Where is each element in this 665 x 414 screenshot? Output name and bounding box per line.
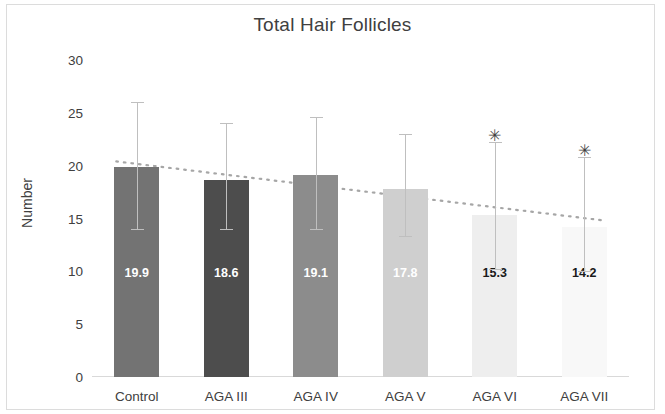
x-tick-label: AGA IV xyxy=(271,389,361,404)
bar-value-label: 18.6 xyxy=(204,266,249,280)
error-bar-cap-lower xyxy=(578,271,591,272)
y-axis-label: Number xyxy=(19,163,35,243)
chart-title: Total Hair Follicles xyxy=(0,14,665,36)
error-bar-line xyxy=(226,123,227,229)
significance-asterisk: ✳ xyxy=(564,146,604,156)
y-tick-label: 30 xyxy=(68,53,83,68)
error-bar-line xyxy=(584,157,585,271)
significance-asterisk: ✳ xyxy=(475,131,515,141)
y-tick-label: 5 xyxy=(75,317,83,332)
error-bar-line xyxy=(405,134,406,236)
error-bar-cap-lower xyxy=(399,236,412,237)
error-bar-cap-upper xyxy=(220,123,233,124)
y-tick-label: 20 xyxy=(68,158,83,173)
y-tick-label: 15 xyxy=(68,211,83,226)
error-bar-cap-lower xyxy=(310,229,323,230)
error-bar-line xyxy=(316,117,317,229)
y-tick-label: 10 xyxy=(68,264,83,279)
y-tick-label: 0 xyxy=(75,370,83,385)
error-bar-cap-upper xyxy=(399,134,412,135)
x-tick-label: Control xyxy=(92,389,182,404)
trendline xyxy=(92,60,629,377)
y-tick-label: 25 xyxy=(68,105,83,120)
error-bar-cap-lower xyxy=(489,269,502,270)
error-bar-cap-upper xyxy=(310,117,323,118)
error-bar-cap-lower xyxy=(220,229,233,230)
x-tick-label: AGA V xyxy=(361,389,451,404)
error-bar-cap-upper xyxy=(131,102,144,103)
chart-figure: Total Hair Follicles Number 051015202530… xyxy=(0,0,665,414)
x-tick-label: AGA III xyxy=(182,389,272,404)
bar-value-label: 17.8 xyxy=(383,266,428,280)
x-tick-label: AGA VII xyxy=(540,389,630,404)
error-bar-line xyxy=(495,142,496,269)
error-bar-cap-lower xyxy=(131,229,144,230)
x-tick-label: AGA VI xyxy=(450,389,540,404)
bar-value-label: 19.1 xyxy=(293,266,338,280)
error-bar-line xyxy=(137,102,138,229)
bar-value-label: 19.9 xyxy=(114,266,159,280)
x-axis-line xyxy=(92,376,629,377)
plot-area: 051015202530 19.918.619.117.815.314.2✳✳ … xyxy=(92,60,629,377)
